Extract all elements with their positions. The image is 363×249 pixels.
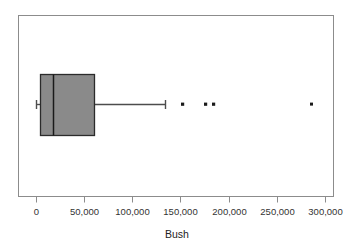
x-tick-label-3: 150,000 xyxy=(163,206,197,217)
x-tick-label-2: 100,000 xyxy=(115,206,149,217)
box-iqr xyxy=(41,75,95,136)
x-tick-label-5: 250,000 xyxy=(260,206,294,217)
boxplot-figure: 0 50,000 100,000 150,000 200,000 250,000… xyxy=(0,0,363,249)
x-tick-label-1: 50,000 xyxy=(70,206,99,217)
boxplot-canvas: 0 50,000 100,000 150,000 200,000 250,000… xyxy=(0,0,363,249)
outlier-point xyxy=(204,103,207,106)
x-tick-label-4: 200,000 xyxy=(212,206,246,217)
outlier-point xyxy=(310,103,313,106)
outlier-point xyxy=(181,103,184,106)
x-axis-ticks xyxy=(37,197,326,203)
x-tick-label-0: 0 xyxy=(34,206,39,217)
outlier-point xyxy=(212,103,215,106)
x-axis-title: Bush xyxy=(165,228,189,240)
x-tick-label-6: 300,000 xyxy=(308,206,342,217)
